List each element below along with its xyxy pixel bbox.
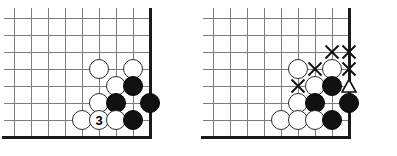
grid-line-vertical	[31, 8, 32, 137]
grid-line-vertical	[213, 8, 214, 137]
grid-line-vertical	[48, 8, 49, 137]
black-stone	[123, 110, 143, 130]
cross-mark	[323, 43, 341, 61]
board-edge-bottom	[201, 136, 351, 139]
grid-line-vertical	[14, 8, 15, 137]
cross-mark	[306, 60, 324, 78]
cross-mark	[289, 77, 307, 95]
left-go-board: 3	[0, 0, 198, 156]
white-stone	[288, 59, 308, 79]
cross-mark	[340, 43, 358, 61]
grid-line-vertical	[230, 8, 231, 137]
grid-line-horizontal	[203, 18, 349, 19]
black-stone	[339, 93, 359, 113]
board-edge-bottom	[2, 136, 152, 139]
grid-line-horizontal	[4, 52, 150, 53]
grid-line-vertical	[65, 8, 66, 137]
board-edge-right	[149, 8, 152, 139]
black-stone	[123, 76, 143, 96]
cross-mark	[340, 60, 358, 78]
grid-line-horizontal	[4, 35, 150, 36]
grid-line-horizontal	[203, 103, 349, 104]
triangle-mark	[340, 77, 358, 95]
grid-line-vertical	[247, 8, 248, 137]
grid-line-vertical	[264, 8, 265, 137]
black-stone	[322, 110, 342, 130]
grid-line-horizontal	[4, 103, 150, 104]
go-diagram-pair: 3	[0, 0, 397, 156]
right-go-board	[199, 0, 397, 156]
grid-line-horizontal	[4, 18, 150, 19]
grid-line-horizontal	[203, 35, 349, 36]
white-stone	[89, 59, 109, 79]
black-stone	[140, 93, 160, 113]
black-stone	[322, 76, 342, 96]
